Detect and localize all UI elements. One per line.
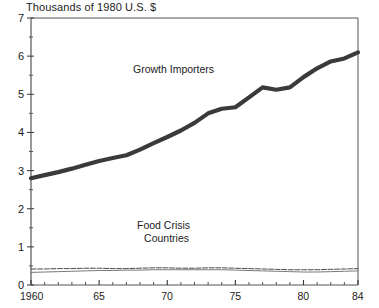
food-crisis-label-line2: Countries <box>143 232 190 245</box>
x-tick-label: 84 <box>352 290 364 302</box>
y-tick-label: 5 <box>18 88 24 100</box>
food-crisis-label-line1: Food Crisis <box>137 219 190 232</box>
y-tick-label: 7 <box>18 12 24 24</box>
y-tick-label: 3 <box>18 165 24 177</box>
y-tick-label: 2 <box>18 203 24 215</box>
x-tick-label: 70 <box>161 290 173 302</box>
chart-figure: Thousands of 1980 U.S. $ 01234567 Growth… <box>0 0 379 308</box>
growth-importers-label: Growth Importers <box>133 63 214 75</box>
y-tick-label: 4 <box>18 126 24 138</box>
y-tick-label: 1 <box>18 241 24 253</box>
x-tick-label: 75 <box>229 290 241 302</box>
x-tick-label: 65 <box>93 290 105 302</box>
y-tick-label: 6 <box>18 50 24 62</box>
food-crisis-label: Food Crisis Countries <box>137 219 190 245</box>
chart-plot-area: 01234567 <box>0 0 379 308</box>
x-tick-label: 1960 <box>20 290 43 302</box>
x-tick-label: 80 <box>298 290 310 302</box>
